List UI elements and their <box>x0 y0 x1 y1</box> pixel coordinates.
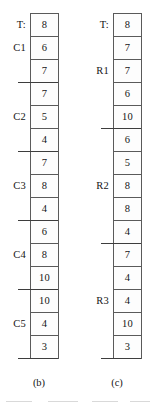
value-stack-b: 86775478468101043 <box>30 13 59 359</box>
value-cell: 8 <box>114 14 141 37</box>
value-cell: 10 <box>31 267 58 290</box>
figure-root: 86775478468101043 T:C1C2C3C4C5 (b) 87761… <box>0 0 156 405</box>
value-cell: 5 <box>114 152 141 175</box>
value-cell: 8 <box>31 14 58 37</box>
value-cell: 3 <box>31 336 58 359</box>
panel-caption-b: (b) <box>0 377 78 388</box>
row-label-r1: R1 <box>78 59 109 82</box>
value-cell: 8 <box>31 244 58 267</box>
row-label-r3: R3 <box>78 289 109 312</box>
value-cell: 6 <box>31 221 58 244</box>
value-cell: 6 <box>114 83 141 106</box>
value-cell: 3 <box>114 336 141 359</box>
row-label-c1: C1 <box>0 36 26 59</box>
value-cell: 10 <box>31 290 58 313</box>
value-cell: 5 <box>31 106 58 129</box>
row-label-c4: C4 <box>0 243 26 266</box>
value-cell: 4 <box>114 290 141 313</box>
value-cell: 4 <box>31 129 58 152</box>
row-label-c5: C5 <box>0 312 26 335</box>
value-cell: 10 <box>114 313 141 336</box>
value-cell: 6 <box>31 37 58 60</box>
value-cell: 8 <box>114 175 141 198</box>
row-label-t: T: <box>78 13 109 36</box>
value-cell: 4 <box>114 267 141 290</box>
value-cell: 7 <box>31 152 58 175</box>
value-cell: 8 <box>31 175 58 198</box>
value-cell: 4 <box>31 313 58 336</box>
value-stack-c: 87761065884744103 <box>113 13 142 359</box>
panel-caption-c: (c) <box>78 377 156 388</box>
value-cell: 7 <box>114 244 141 267</box>
row-label-c2: C2 <box>0 105 26 128</box>
page-edge-artifact <box>0 398 156 405</box>
value-cell: 7 <box>31 60 58 83</box>
value-cell: 7 <box>114 37 141 60</box>
value-cell: 8 <box>114 198 141 221</box>
panel-c: 87761065884744103 T:R1R2R3 (c) <box>78 0 156 405</box>
panel-b: 86775478468101043 T:C1C2C3C4C5 (b) <box>0 0 78 405</box>
value-cell: 7 <box>114 60 141 83</box>
row-label-r2: R2 <box>78 174 109 197</box>
value-cell: 4 <box>31 198 58 221</box>
row-label-c3: C3 <box>0 174 26 197</box>
value-cell: 10 <box>114 106 141 129</box>
value-cell: 6 <box>114 129 141 152</box>
value-cell: 7 <box>31 83 58 106</box>
row-label-t: T: <box>0 13 26 36</box>
value-cell: 4 <box>114 221 141 244</box>
